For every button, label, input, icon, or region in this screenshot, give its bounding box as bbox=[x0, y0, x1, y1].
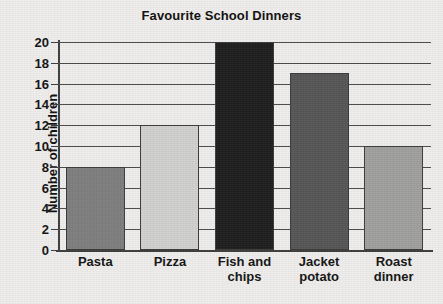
bar-jacket-potato[interactable] bbox=[290, 73, 349, 250]
x-axis-category-labels: PastaPizzaFish andchipsJacketpotatoRoast… bbox=[58, 254, 431, 302]
x-label-fish-and-chips: Fish andchips bbox=[207, 254, 282, 284]
y-tick-label-2: 2 bbox=[42, 222, 49, 237]
bar-fish-and-chips[interactable] bbox=[215, 42, 274, 250]
y-tick-label-18: 18 bbox=[35, 55, 49, 70]
y-tick-label-14: 14 bbox=[35, 97, 49, 112]
y-tick-mark-16 bbox=[51, 84, 58, 85]
y-tick-mark-14 bbox=[51, 104, 58, 105]
bar-chart: Favourite School Dinners Number of child… bbox=[0, 0, 443, 304]
plot-area: 20181614121086420 bbox=[58, 42, 431, 250]
bar-pasta[interactable] bbox=[66, 167, 125, 250]
x-label-pasta: Pasta bbox=[58, 254, 133, 269]
x-label-roast-dinner: Roastdinner bbox=[356, 254, 431, 284]
y-tick-label-20: 20 bbox=[35, 35, 49, 50]
y-tick-label-12: 12 bbox=[35, 118, 49, 133]
y-tick-label-0: 0 bbox=[42, 243, 49, 258]
y-tick-mark-20 bbox=[51, 42, 58, 43]
bar-roast-dinner[interactable] bbox=[364, 146, 423, 250]
y-tick-label-6: 6 bbox=[42, 180, 49, 195]
bar-pizza[interactable] bbox=[140, 125, 199, 250]
y-tick-label-4: 4 bbox=[42, 201, 49, 216]
y-tick-mark-12 bbox=[51, 125, 58, 126]
y-tick-mark-2 bbox=[51, 229, 58, 230]
y-tick-mark-0 bbox=[51, 250, 58, 251]
chart-title: Favourite School Dinners bbox=[0, 8, 443, 23]
y-tick-mark-18 bbox=[51, 63, 58, 64]
x-axis-line bbox=[56, 250, 433, 252]
y-tick-label-8: 8 bbox=[42, 159, 49, 174]
y-tick-mark-4 bbox=[51, 208, 58, 209]
x-label-pizza: Pizza bbox=[133, 254, 208, 269]
y-tick-mark-6 bbox=[51, 188, 58, 189]
x-label-jacket-potato: Jacketpotato bbox=[282, 254, 357, 284]
y-tick-label-16: 16 bbox=[35, 76, 49, 91]
y-tick-label-10: 10 bbox=[35, 139, 49, 154]
y-tick-mark-8 bbox=[51, 167, 58, 168]
y-tick-mark-10 bbox=[51, 146, 58, 147]
